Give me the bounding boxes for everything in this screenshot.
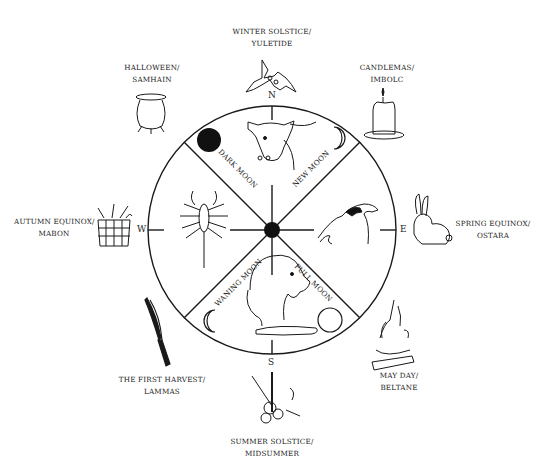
- festival-candlemas: CANDLEMAS/ IMBOLC: [352, 62, 422, 86]
- new-moon-crescent-icon: [334, 127, 345, 149]
- festival-winter-solstice: WINTER SOLSTICE/ YULETIDE: [214, 26, 330, 50]
- direction-west: W: [137, 224, 146, 234]
- full-moon-icon: [318, 308, 342, 332]
- dark-moon-icon: [197, 128, 221, 152]
- festival-halloween-line2: SAMHAIN: [120, 74, 184, 86]
- festival-may-day: MAY DAY/ BELTANE: [372, 370, 426, 394]
- eagle-icon: [318, 204, 378, 244]
- harvest-basket-icon: [98, 204, 132, 246]
- festival-candlemas-line2: IMBOLC: [352, 74, 422, 86]
- rabbit-icon: [414, 194, 452, 244]
- festival-autumn-line1: AUTUMN EQUINOX/: [14, 216, 94, 228]
- festival-winter-line1: WINTER SOLSTICE/: [214, 26, 330, 38]
- direction-east: E: [400, 224, 407, 234]
- festival-winter-line2: YULETIDE: [214, 38, 330, 50]
- festival-summer-line1: SUMMER SOLSTICE/: [222, 436, 322, 448]
- festival-autumn-equinox: AUTUMN EQUINOX/ MABON: [14, 216, 94, 240]
- festival-halloween-line1: HALLOWEEN/: [120, 62, 184, 74]
- festival-mayday-line1: MAY DAY/: [372, 370, 426, 382]
- candle-icon: [364, 88, 404, 139]
- direction-south: S: [268, 357, 274, 367]
- festival-halloween: HALLOWEEN/ SAMHAIN: [120, 62, 184, 86]
- scorpion-icon: [180, 191, 228, 268]
- bonfire-icon: [372, 300, 414, 370]
- direction-north: N: [268, 90, 276, 100]
- festival-spring-line1: SPRING EQUINOX/: [452, 218, 534, 230]
- spoke-sw: [184, 230, 272, 318]
- flowers-wheat-icon: [252, 372, 300, 423]
- spoke-se: [272, 230, 360, 318]
- festival-autumn-line2: MABON: [14, 228, 94, 240]
- festival-summer-solstice: SUMMER SOLSTICE/ MIDSUMMER: [222, 436, 322, 460]
- festival-candlemas-line1: CANDLEMAS/: [352, 62, 422, 74]
- festival-mayday-line2: BELTANE: [372, 382, 426, 394]
- waning-moon-crescent-icon: [204, 310, 215, 332]
- festival-summer-line2: MIDSUMMER: [222, 448, 322, 460]
- cauldron-icon: [136, 94, 166, 134]
- bull-icon: [248, 121, 316, 170]
- festival-spring-equinox: SPRING EQUINOX/ OSTARA: [452, 218, 534, 242]
- holly-icon: [246, 60, 296, 92]
- festival-spring-line2: OSTARA: [452, 230, 534, 242]
- festival-lammas-line1: THE FIRST HARVEST/: [112, 374, 212, 386]
- festival-lammas: THE FIRST HARVEST/ LAMMAS: [112, 374, 212, 398]
- hub-dot: [264, 222, 280, 238]
- festival-lammas-line2: LAMMAS: [112, 386, 212, 398]
- wheat-sheaf-icon: [145, 298, 170, 366]
